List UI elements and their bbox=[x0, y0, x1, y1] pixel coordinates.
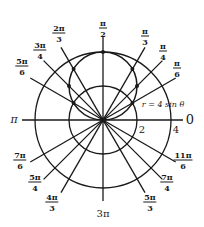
label-denominator: 4 bbox=[160, 52, 166, 61]
label-denominator: 3 bbox=[56, 34, 62, 43]
label-numerator: 7π bbox=[13, 151, 26, 161]
label-numerator: 3π bbox=[33, 41, 46, 51]
origin-point bbox=[101, 118, 106, 123]
label-denominator: 3 bbox=[147, 203, 153, 212]
label-denominator: 6 bbox=[174, 69, 180, 78]
label-denominator: 6 bbox=[19, 67, 25, 76]
angle-label-7pi-6: 7π6 bbox=[13, 151, 26, 170]
label-numerator: 4π bbox=[45, 193, 58, 203]
angle-label-2pi-3: 2π3 bbox=[52, 24, 65, 43]
label-numerator: 5π bbox=[143, 193, 156, 203]
radius-label-4: 4 bbox=[173, 124, 179, 135]
equation-label: r = 4 sin θ bbox=[142, 100, 184, 109]
label-numerator: 2π bbox=[52, 24, 65, 34]
angle-label-0: 0 bbox=[186, 112, 194, 127]
label-denominator: 4 bbox=[37, 51, 43, 60]
radius-label-2: 2 bbox=[139, 124, 145, 135]
label-denominator: 3 bbox=[142, 37, 148, 46]
label-denominator: 2 bbox=[100, 29, 106, 38]
angle-label-pi-4: π4 bbox=[159, 42, 167, 61]
angle-label-5pi-6: 5π6 bbox=[15, 57, 28, 76]
label-denominator: 3 bbox=[49, 203, 55, 212]
point-5pi-6 bbox=[72, 101, 76, 105]
angle-label-pi: π bbox=[10, 113, 17, 126]
angle-label-pi-3: π3 bbox=[141, 27, 149, 46]
point-pi-6 bbox=[130, 101, 134, 105]
label-numerator: π bbox=[99, 19, 107, 29]
point-2pi-3 bbox=[72, 67, 76, 71]
point-3pi-4 bbox=[67, 84, 71, 88]
label-denominator: 6 bbox=[17, 161, 23, 170]
angle-label-5pi-3: 5π3 bbox=[143, 193, 156, 212]
angle-label-pi-6: π6 bbox=[173, 59, 181, 78]
angle-label-pi-2: π2 bbox=[99, 19, 107, 38]
angle-label-4pi-3: 4π3 bbox=[45, 193, 58, 212]
label-denominator: 4 bbox=[164, 183, 170, 192]
angle-label-3pi-4: 3π4 bbox=[33, 41, 46, 60]
angle-label-11pi-6: 11π6 bbox=[174, 151, 193, 170]
angle-label-7pi-4: 7π4 bbox=[160, 173, 173, 192]
label-numerator: π bbox=[141, 27, 149, 37]
label-numerator: π bbox=[159, 42, 167, 52]
label-numerator: 7π bbox=[160, 173, 173, 183]
label-numerator: π bbox=[173, 59, 181, 69]
label-numerator: 11π bbox=[174, 151, 193, 161]
angle-label-5pi-4: 5π4 bbox=[28, 173, 41, 192]
label-denominator: 6 bbox=[180, 161, 186, 170]
point-pi-3 bbox=[130, 67, 134, 71]
angle-label-3pi: 3π bbox=[97, 208, 110, 219]
point-pi-4 bbox=[135, 84, 139, 88]
label-denominator: 4 bbox=[32, 183, 38, 192]
label-numerator: 5π bbox=[15, 57, 28, 67]
point-pi-2 bbox=[101, 50, 105, 54]
label-numerator: 5π bbox=[28, 173, 41, 183]
